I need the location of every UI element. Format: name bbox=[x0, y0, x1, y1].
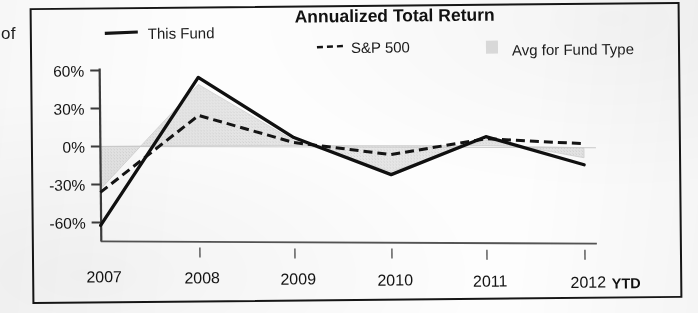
y-tick-label-0: 0% bbox=[62, 139, 85, 156]
legend-item-this-fund: This Fund bbox=[105, 24, 215, 42]
y-tick-label-neg60: -60% bbox=[49, 215, 86, 232]
x-tick-label-2007: 2007 bbox=[86, 268, 122, 285]
y-tick-label-30: 30% bbox=[53, 101, 84, 118]
x-tick-label-2008: 2008 bbox=[184, 269, 220, 286]
x-axis-line bbox=[101, 237, 597, 249]
x-axis: 2007 2008 2009 2010 2011 2012 YTD bbox=[86, 236, 641, 296]
dashed-line-swatch-icon bbox=[317, 46, 343, 47]
chart-screenshot: of Annualized Total Return This Fund bbox=[0, 0, 698, 313]
y-axis-line bbox=[100, 68, 102, 241]
y-axis: 60% 30% 0% -30% -60% bbox=[48, 62, 102, 241]
x-axis-ytd-label: YTD bbox=[612, 275, 641, 291]
chart-title: Annualized Total Return bbox=[295, 5, 495, 27]
y-tick-label-60: 60% bbox=[53, 63, 84, 80]
solid-line-swatch-icon bbox=[105, 32, 138, 33]
annualized-total-return-chart: Annualized Total Return This Fund S&P 50… bbox=[0, 0, 698, 313]
x-tick-label-2012: 2012 bbox=[570, 274, 606, 291]
legend-item-sp500: S&P 500 bbox=[317, 38, 410, 56]
page-edge-text-fragment: of bbox=[1, 24, 16, 44]
legend-label-avg-fund-type: Avg for Fund Type bbox=[512, 40, 634, 58]
legend-item-avg-fund-type: Avg for Fund Type bbox=[486, 39, 634, 58]
chart-plot-area: Annualized Total Return This Fund S&P 50… bbox=[0, 0, 698, 313]
legend-label-sp500: S&P 500 bbox=[351, 38, 410, 56]
x-tick-label-2010: 2010 bbox=[377, 271, 413, 288]
x-tick-label-2011: 2011 bbox=[473, 272, 508, 289]
x-tick-label-2009: 2009 bbox=[280, 270, 316, 287]
legend-label-this-fund: This Fund bbox=[148, 24, 215, 42]
chart-legend: This Fund S&P 500 Avg for Fund Type bbox=[105, 20, 634, 62]
gray-square-swatch-icon bbox=[486, 41, 498, 54]
y-tick-label-neg30: -30% bbox=[49, 177, 86, 194]
